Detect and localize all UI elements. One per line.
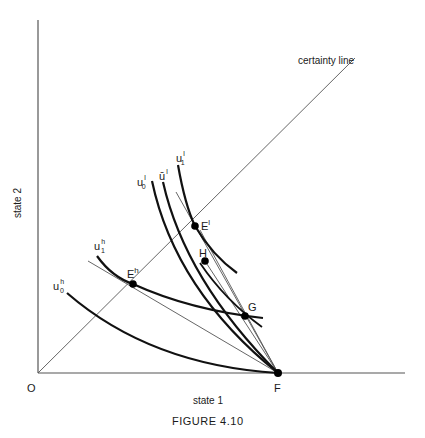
label-ubar-l: ūl: [159, 168, 168, 182]
price-line-extra: [200, 230, 278, 373]
label-G: G: [248, 301, 257, 313]
label-F: F: [274, 382, 281, 394]
curve-u0h: [67, 293, 278, 373]
figure-caption: FIGURE 4.10: [172, 415, 244, 427]
curve-u1h: [97, 256, 263, 318]
label-Eh: Eh: [127, 266, 139, 280]
label-u1h: uh1: [94, 238, 105, 254]
y-axis-label: state 2: [12, 188, 23, 218]
x-axis-label: state 1: [193, 395, 223, 406]
label-u1l: ul1: [176, 150, 185, 166]
label-u0l: ul0: [137, 174, 146, 190]
point-F: [274, 369, 282, 377]
insurance-diagram: F G H El Eh uh0 uh1 ul0 ūl ul1 O state 1…: [0, 0, 425, 438]
label-H: H: [199, 247, 207, 259]
label-origin: O: [27, 382, 36, 394]
certainty-line-label: certainty line: [298, 55, 355, 66]
certainty-line: [38, 58, 355, 373]
point-Eh: [129, 280, 137, 288]
label-u0h: uh0: [53, 278, 64, 294]
curve-ubar-l: [163, 182, 278, 373]
point-El: [191, 222, 199, 230]
label-El: El: [201, 218, 210, 232]
point-G: [241, 312, 249, 320]
